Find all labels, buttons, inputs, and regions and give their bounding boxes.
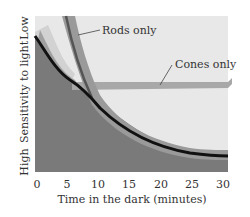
y-axis-label: Sensitivity to light [18, 40, 31, 143]
x-tick-0: 0 [34, 178, 41, 191]
y-axis: Low Sensitivity to light High [18, 16, 31, 176]
y-label-high: High [18, 148, 31, 175]
x-tick-5: 5 [64, 178, 71, 191]
x-tick-25: 25 [185, 178, 199, 191]
dark-adaptation-chart: Rods only Cones only 0 5 10 15 20 25 30 … [0, 0, 250, 217]
x-axis: 0 5 10 15 20 25 30 Time in the dark (min… [34, 178, 231, 206]
cones-only-label: Cones only [175, 58, 237, 71]
x-axis-label: Time in the dark (minutes) [57, 193, 206, 206]
x-tick-30: 30 [216, 178, 230, 191]
y-label-low: Low [18, 16, 31, 40]
x-tick-20: 20 [154, 178, 168, 191]
rods-only-label: Rods only [102, 24, 157, 37]
x-tick-10: 10 [91, 178, 105, 191]
x-tick-15: 15 [122, 178, 136, 191]
